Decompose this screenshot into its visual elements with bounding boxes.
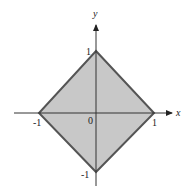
- y-axis-label: y: [92, 8, 98, 19]
- diamond-region-diagram: y x 1 -1 0 1 -1: [0, 0, 183, 195]
- x-axis-label: x: [175, 107, 181, 118]
- tick-y-neg: -1: [81, 169, 89, 180]
- origin-label: 0: [88, 115, 93, 126]
- tick-x-pos: 1: [152, 117, 157, 128]
- tick-y-pos: 1: [86, 46, 91, 57]
- tick-x-neg: -1: [33, 117, 41, 128]
